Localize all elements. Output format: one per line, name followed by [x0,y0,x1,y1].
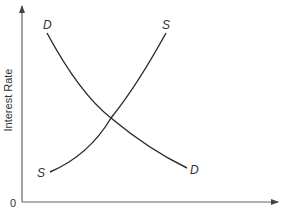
supply-bottom-label: S [37,166,45,180]
supply-demand-chart: D S S D 0 Interest Rate [0,0,291,210]
supply-curve [50,33,166,172]
origin-label: 0 [10,197,16,209]
demand-curve [47,33,187,168]
y-axis-title: Interest Rate [2,69,14,132]
supply-top-label: S [162,18,170,32]
demand-top-label: D [43,18,52,32]
demand-bottom-label: D [190,163,199,177]
